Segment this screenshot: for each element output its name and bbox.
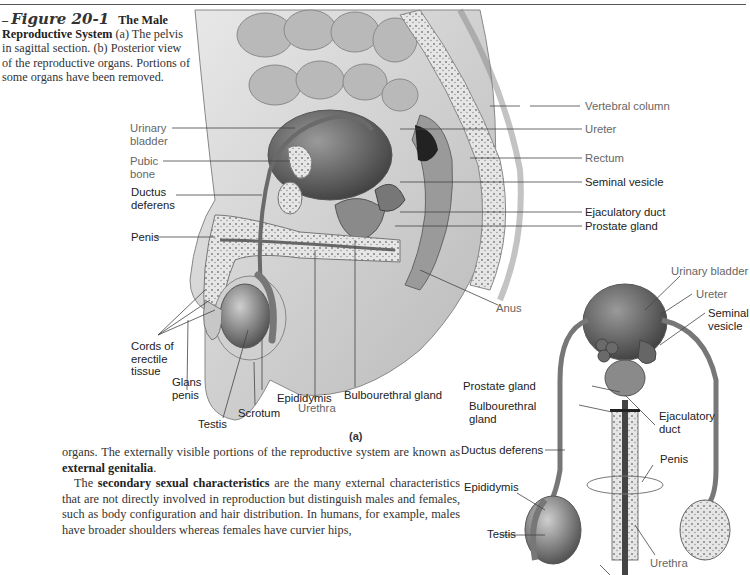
- label-line: penis: [172, 389, 199, 401]
- label-line: Seminal: [708, 307, 749, 319]
- label-a-ductus-deferens: Ductusdeferens: [131, 186, 175, 211]
- label-line: Ejaculatory: [659, 410, 715, 422]
- label-a-anus: Anus: [496, 302, 522, 315]
- label-b-epididymis: Epididymis: [464, 481, 519, 494]
- label-a-rectum: Rectum: [585, 152, 624, 165]
- label-a-cords-of-erectile-tissue: Cords oferectiletissue: [131, 340, 174, 378]
- label-b-bulbourethral-gland: Bulbourethralgland: [469, 400, 536, 425]
- paragraph-1: organs. The externally visible portions …: [62, 445, 460, 476]
- label-b-testis: Testis: [487, 528, 516, 541]
- label-line: Urinary: [130, 122, 166, 134]
- label-line: bladder: [130, 135, 168, 147]
- text-run: .: [153, 461, 156, 475]
- label-b-ejaculatory-duct: Ejaculatoryduct: [659, 410, 715, 435]
- label-b-urethra: Urethra: [650, 557, 688, 570]
- label-line: tissue: [131, 365, 161, 377]
- label-a-urinary-bladder: Urinarybladder: [130, 122, 168, 147]
- label-a-vertebral-column: Vertebral column: [585, 100, 670, 113]
- term-external-genitalia: external genitalia: [62, 461, 153, 475]
- label-line: vesicle: [708, 320, 743, 332]
- paragraph-2: The secondary sexual characteristics are…: [62, 476, 460, 538]
- label-line: Ductus: [131, 186, 166, 198]
- label-line: Bulbourethral: [469, 400, 536, 412]
- body-text: organs. The externally visible portions …: [62, 445, 460, 539]
- label-line: Cords of: [131, 340, 174, 352]
- label-line: erectile: [131, 353, 167, 365]
- label-a-ejaculatory-duct: Ejaculatory duct: [585, 206, 665, 219]
- label-a-pubic-bone: Pubicbone: [130, 155, 158, 180]
- label-a-bulbourethral-gland: Bulbourethral gland: [344, 389, 442, 402]
- label-a-testis: Testis: [198, 418, 227, 431]
- text-run: The: [74, 476, 98, 490]
- label-line: deferens: [131, 199, 175, 211]
- label-a-seminal-vesicle: Seminal vesicle: [585, 176, 663, 189]
- label-b-urinary-bladder: Urinary bladder: [671, 265, 748, 278]
- label-a-prostate-gland: Prostate gland: [585, 220, 658, 233]
- label-a-penis: Penis: [131, 231, 159, 244]
- label-line: Pubic: [130, 155, 158, 167]
- label-a-glans-penis: Glanspenis: [172, 376, 202, 401]
- label-b-penis: Penis: [660, 453, 688, 466]
- term-secondary-sexual-characteristics: secondary sexual characteristics: [98, 476, 270, 490]
- panel-a-label: (a): [349, 430, 362, 442]
- label-a-urethra: Urethra: [298, 402, 336, 415]
- label-b-ureter: Ureter: [696, 288, 727, 301]
- label-line: gland: [469, 413, 497, 425]
- label-line: Glans: [172, 376, 202, 388]
- label-b-prostate-gland: Prostate gland: [463, 380, 536, 393]
- text-run: organs. The externally visible portions …: [62, 445, 460, 459]
- label-line: duct: [659, 423, 680, 435]
- label-a-scrotum: Scrotum: [238, 407, 280, 420]
- label-line: bone: [130, 168, 155, 180]
- label-b-seminal-vesicle: Seminalvesicle: [708, 307, 749, 332]
- label-a-ureter: Ureter: [585, 123, 616, 136]
- label-b-ductus-deferens: Ductus deferens: [461, 444, 543, 457]
